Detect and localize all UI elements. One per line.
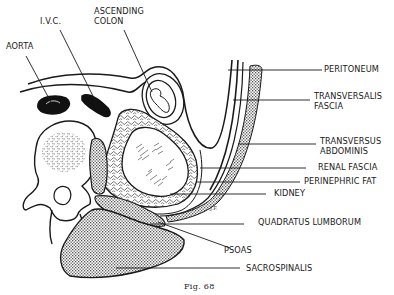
label-perinephric-fat: PERINEPHRIC FAT [304, 177, 376, 187]
label-renal-fascia: RENAL FASCIA [318, 163, 377, 173]
psoas [90, 139, 108, 195]
label-quadratus-lumborum: QUADRATUS LUMBORUM [258, 218, 361, 228]
figure-caption: Fig. 68 [184, 282, 215, 291]
label-sacrospinalis: SACROSPINALIS [246, 264, 312, 274]
aorta [38, 96, 70, 114]
label-psoas: PSOAS [224, 246, 252, 256]
label-aorta: AORTA [6, 42, 33, 52]
ivc [82, 95, 110, 117]
label-kidney: KIDNEY [274, 189, 305, 199]
label-peritoneum: PERITONEUM [324, 65, 379, 75]
artist-initials: J.F. [209, 205, 218, 212]
label-transversalis-fascia-line2: FASCIA [314, 102, 343, 112]
label-ivc: I.V.C. [40, 17, 61, 27]
label-ascending-colon-line2: COLON [94, 17, 124, 27]
sacrospinalis [61, 209, 185, 278]
label-transversus-abdominis-line2: ABDOMINIS [320, 147, 368, 157]
